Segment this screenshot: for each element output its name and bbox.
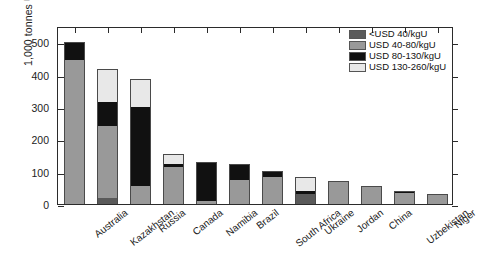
- x-tick-label: Niger: [452, 207, 477, 230]
- y-tick-label: 0: [43, 199, 49, 211]
- x-tick-label: Brazil: [254, 207, 280, 231]
- bar: [394, 191, 416, 204]
- bar-segment: [64, 60, 86, 204]
- y-tick-label: 500: [31, 37, 49, 49]
- legend-label: <USD 40/kgU: [369, 29, 427, 39]
- bar-segment: [97, 126, 119, 197]
- bar: [427, 194, 449, 204]
- bar-segment: [97, 102, 119, 126]
- bar-segment: [163, 167, 185, 204]
- y-tick-mark-right: [452, 141, 458, 142]
- bar-segment: [97, 69, 119, 102]
- y-tick-label: 200: [31, 134, 49, 146]
- y-tick-label: 300: [31, 102, 49, 114]
- bar: [262, 171, 284, 204]
- legend: <USD 40/kgUUSD 40-80/kgUUSD 80-130/kgUUS…: [349, 29, 446, 72]
- y-tick-label: 400: [31, 70, 49, 82]
- legend-label: USD 40-80/kgU: [369, 40, 436, 50]
- bar: [361, 186, 383, 204]
- legend-label: USD 130-260/kgU: [369, 62, 446, 72]
- legend-item: USD 40-80/kgU: [349, 40, 446, 50]
- bar-segment: [229, 164, 251, 180]
- y-tick-label: 100: [31, 167, 49, 179]
- bar: [328, 181, 350, 204]
- bar-segment: [361, 186, 383, 204]
- bar-segment: [427, 194, 449, 204]
- y-tick-mark-right: [452, 77, 458, 78]
- y-tick-mark-right: [452, 109, 458, 110]
- bar-segment: [328, 181, 350, 204]
- bar-segment: [295, 194, 317, 204]
- legend-item: USD 130-260/kgU: [349, 62, 446, 72]
- legend-swatch: [349, 30, 366, 39]
- bar-segment: [97, 198, 119, 204]
- y-tick-mark-right: [452, 44, 458, 45]
- bar: [295, 177, 317, 205]
- bar-segment: [394, 193, 416, 204]
- x-axis-labels: AustraliaKazakhstanRussiaCanadaNamibiaBr…: [57, 207, 453, 269]
- bar-segment: [229, 180, 251, 204]
- legend-swatch: [349, 52, 366, 61]
- bar-segment: [130, 107, 152, 186]
- bar-segment: [196, 201, 218, 204]
- bar: [64, 42, 86, 204]
- bar-segment: [295, 177, 317, 192]
- legend-swatch: [349, 41, 366, 50]
- y-tick-mark-right: [452, 174, 458, 175]
- x-tick-label: Jordan: [354, 207, 385, 234]
- legend-item: USD 80-130/kgU: [349, 51, 446, 61]
- bar-segment: [196, 162, 218, 201]
- legend-swatch: [349, 63, 366, 72]
- bar: [130, 79, 152, 204]
- x-tick-label: China: [386, 207, 413, 232]
- bar: [97, 69, 119, 204]
- bar-segment: [130, 79, 152, 107]
- bar-segment: [262, 177, 284, 205]
- bar-segment: [130, 186, 152, 204]
- x-tick-label: Australia: [92, 207, 129, 240]
- bar-segment: [163, 154, 185, 164]
- legend-label: USD 80-130/kgU: [369, 51, 441, 61]
- bar: [229, 164, 251, 204]
- bar: [163, 154, 185, 204]
- x-tick-label: Canada: [190, 207, 224, 237]
- y-axis-title: 1,000 tonnes U: [22, 0, 34, 66]
- bar-segment: [64, 42, 86, 60]
- legend-item: <USD 40/kgU: [349, 29, 446, 39]
- bar: [196, 162, 218, 204]
